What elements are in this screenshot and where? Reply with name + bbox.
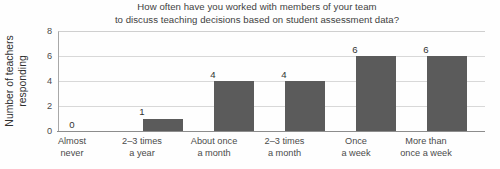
chart-title-line-1: How often have you worked with members o… [0, 1, 500, 14]
bar-about-once-a-month[interactable] [214, 81, 254, 131]
y-tick-label-2: 2 [30, 101, 52, 111]
x-tick-label-once-a-week: Once a week [325, 136, 387, 159]
x-tick-about-once-a-month-line-1: About once [181, 136, 247, 148]
bar-value-2-3-times-a-year: 1 [122, 106, 162, 117]
bar-more-than-once-a-week[interactable] [427, 56, 467, 131]
x-tick-about-once-a-month-line-2: a month [181, 148, 247, 160]
chart-title: How often have you worked with members o… [0, 1, 500, 26]
x-tick-more-than-once-a-week-line-1: More than [388, 136, 464, 148]
y-tick-label-8: 8 [30, 26, 52, 36]
chart-title-line-2: to discuss teaching decisions based on s… [0, 14, 500, 27]
x-tick-label-2-3-times-a-month: 2–3 times a month [253, 136, 316, 159]
bar-value-about-once-a-month: 4 [193, 69, 233, 80]
x-tick-2-3-times-a-year-line-2: a year [111, 148, 173, 160]
x-axis-line [57, 131, 485, 132]
y-axis-title-line-2: responding [16, 35, 29, 126]
bar-once-a-week[interactable] [356, 56, 396, 131]
x-tick-2-3-times-a-year-line-1: 2–3 times [111, 136, 173, 148]
y-tick-label-0: 0 [30, 126, 52, 136]
y-tick-label-4: 4 [30, 76, 52, 86]
x-tick-label-almost-never: Almost never [42, 136, 102, 159]
x-tick-almost-never-line-2: never [42, 148, 102, 160]
x-tick-2-3-times-a-month-line-2: a month [253, 148, 316, 160]
x-tick-almost-never-line-1: Almost [42, 136, 102, 148]
gridline-4 [59, 81, 485, 82]
bar-value-almost-never: 0 [52, 119, 92, 130]
bar-value-once-a-week: 6 [335, 44, 375, 55]
y-axis-title-line-1: Number of teachers [3, 35, 16, 126]
x-tick-once-a-week-line-1: Once [325, 136, 387, 148]
bar-value-2-3-times-a-month: 4 [264, 69, 304, 80]
x-tick-2-3-times-a-month-line-1: 2–3 times [253, 136, 316, 148]
x-tick-label-about-once-a-month: About once a month [181, 136, 247, 159]
bar-chart-figure: How often have you worked with members o… [0, 0, 500, 169]
bar-value-more-than-once-a-week: 6 [406, 44, 446, 55]
bar-2-3-times-a-year[interactable] [143, 119, 183, 132]
y-tick-label-6: 6 [30, 51, 52, 61]
x-tick-label-2-3-times-a-year: 2–3 times a year [111, 136, 173, 159]
x-tick-label-more-than-once-a-week: More than once a week [388, 136, 464, 159]
x-tick-more-than-once-a-week-line-2: once a week [388, 148, 464, 160]
x-tick-once-a-week-line-2: a week [325, 148, 387, 160]
bar-2-3-times-a-month[interactable] [285, 81, 325, 131]
gridline-6 [59, 56, 485, 57]
